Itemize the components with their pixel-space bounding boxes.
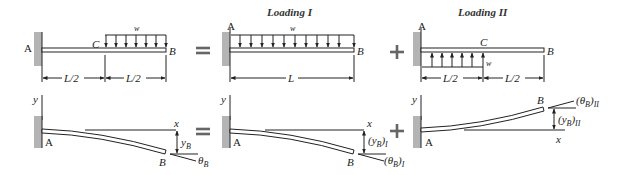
slope-label: θB <box>198 154 208 169</box>
y-axis-label: y <box>411 93 417 105</box>
dim-right: L/2 <box>125 72 141 84</box>
deflected-beam <box>421 107 544 132</box>
label-a: A <box>418 20 426 32</box>
y-axis-label: y <box>220 93 226 105</box>
loading-1-panel: Loading I A w B L <box>222 6 364 84</box>
label-a: A <box>425 136 433 148</box>
y-axis-label: y <box>32 93 38 105</box>
label-w: w <box>134 24 140 33</box>
x-axis-label: x <box>555 133 561 145</box>
label-b: B <box>169 45 176 57</box>
label-a: A <box>24 42 32 54</box>
label-b: B <box>159 156 166 168</box>
distributed-load <box>231 35 354 47</box>
plus-sign-bottom <box>390 124 404 138</box>
label-b: B <box>347 156 354 168</box>
dim-left: L/2 <box>442 72 458 84</box>
loading-2-deflection-panel: y x A B (yB)II (θB)II <box>411 93 599 148</box>
fixed-support-wall <box>413 116 421 148</box>
x-axis-label: x <box>366 117 372 129</box>
plus-sign-top <box>390 45 404 59</box>
equals-sign-top <box>196 48 210 53</box>
label-c: C <box>480 36 488 48</box>
upward-distributed-load <box>422 53 483 67</box>
label-b: B <box>537 94 544 106</box>
label-b: B <box>547 45 554 57</box>
original-deflection-panel: y x A B yB θB <box>32 93 208 169</box>
loading-2-title: Loading II <box>457 6 508 18</box>
loading-1-deflection-panel: y x A B (yB)I (θB)I <box>220 93 405 169</box>
label-a: A <box>45 136 53 148</box>
deflection-label: (yB)I <box>368 134 388 149</box>
dim-length: L <box>287 72 294 84</box>
deflected-beam <box>230 129 354 154</box>
slope-label: (θB)II <box>576 94 599 109</box>
original-loading-panel: A w C B L/2 L/2 <box>24 24 176 84</box>
label-a: A <box>233 136 241 148</box>
loading-2-panel: Loading II A C B w L/2 L/2 <box>413 6 554 84</box>
x-axis-label: x <box>173 117 179 129</box>
equals-sign-bottom <box>196 129 210 134</box>
superposition-diagram: A w C B L/2 L/2 Loading I <box>0 0 621 175</box>
fixed-support-wall <box>413 32 421 66</box>
fixed-support-wall <box>222 32 230 66</box>
dim-left: L/2 <box>63 72 79 84</box>
label-b: B <box>357 45 364 57</box>
fixed-support-wall <box>34 32 42 66</box>
label-w: w <box>486 59 492 68</box>
label-a: A <box>227 20 235 32</box>
label-c: C <box>92 38 100 50</box>
beam <box>230 48 354 52</box>
deflection-label: (yB)II <box>558 113 581 128</box>
slope-label: (θB)I <box>384 154 405 169</box>
deflected-beam <box>42 129 166 154</box>
distributed-load <box>105 35 166 47</box>
beam <box>42 48 166 52</box>
fixed-support-wall <box>222 116 230 148</box>
fixed-support-wall <box>34 116 42 148</box>
deflection-label: yB <box>180 136 191 151</box>
label-w: w <box>290 24 296 33</box>
loading-1-title: Loading I <box>266 6 313 18</box>
beam <box>421 48 544 52</box>
dim-right: L/2 <box>504 72 520 84</box>
